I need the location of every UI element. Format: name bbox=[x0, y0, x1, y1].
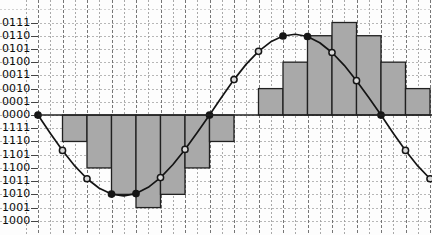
sample-point-marker bbox=[402, 147, 408, 153]
quantization-chart: 0111011001010100001100100001000011111110… bbox=[0, 0, 432, 235]
quantized-bar bbox=[259, 89, 284, 115]
sample-point-marker bbox=[182, 146, 188, 152]
quantized-bar bbox=[283, 62, 308, 115]
quantized-bar bbox=[357, 36, 382, 115]
sample-point-marker bbox=[329, 49, 335, 55]
sample-point-marker bbox=[108, 191, 114, 197]
plot-area bbox=[0, 0, 432, 235]
quantized-bar bbox=[210, 115, 235, 141]
sample-point-marker bbox=[59, 147, 65, 153]
sample-point-marker bbox=[133, 190, 139, 196]
quantized-bar bbox=[406, 89, 431, 115]
quantized-bar bbox=[63, 115, 88, 141]
sample-point-marker bbox=[84, 176, 90, 182]
quantized-bar bbox=[87, 115, 112, 168]
chart-svg bbox=[0, 0, 432, 235]
quantized-bar bbox=[381, 62, 406, 115]
sample-point-marker bbox=[353, 78, 359, 84]
sample-point-marker bbox=[231, 77, 237, 83]
sample-point-marker bbox=[304, 33, 310, 39]
quantized-bar bbox=[308, 36, 333, 115]
sample-point-marker bbox=[427, 176, 432, 182]
quantized-bar bbox=[332, 23, 357, 116]
sample-point-marker bbox=[157, 174, 163, 180]
quantized-bar bbox=[185, 115, 210, 168]
quantized-bar bbox=[112, 115, 137, 194]
sample-point-marker bbox=[280, 33, 286, 39]
sample-point-marker bbox=[255, 48, 261, 54]
